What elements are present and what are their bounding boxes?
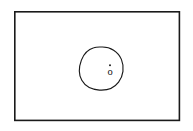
- figure-canvas: o: [0, 0, 193, 131]
- diagram-svg: o: [0, 0, 193, 131]
- outer-rectangle: [15, 12, 180, 121]
- interior-point-label: o: [107, 66, 112, 77]
